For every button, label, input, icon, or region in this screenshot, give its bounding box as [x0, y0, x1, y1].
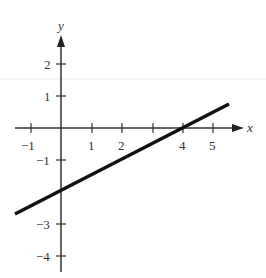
x-axis: x: [15, 120, 253, 135]
y-tick-label: 1: [44, 89, 51, 104]
x-tick-label: 4: [179, 138, 186, 153]
x-tick-label: 1: [88, 138, 95, 153]
y-tick-labels: 2 1 −1 −3 −4: [36, 57, 51, 264]
y-tick-label: −1: [36, 153, 50, 168]
x-tick-labels: −1 1 2 4 5: [21, 138, 216, 153]
y-axis-arrow-icon: [57, 35, 65, 47]
x-tick-label: −1: [21, 138, 35, 153]
x-tick-label: 2: [118, 138, 125, 153]
y-axis-label: y: [56, 18, 64, 33]
x-axis-arrow-icon: [232, 124, 244, 132]
y-axis: y: [56, 18, 65, 272]
chart: x y −1 1 2 4 5 2 1 −1 −3 −4: [0, 0, 266, 278]
y-tick-label: −3: [36, 217, 50, 232]
y-tick-label: 2: [44, 57, 51, 72]
x-axis-label: x: [246, 120, 253, 135]
y-tick-label: −4: [36, 249, 50, 264]
x-tick-label: 5: [209, 138, 216, 153]
